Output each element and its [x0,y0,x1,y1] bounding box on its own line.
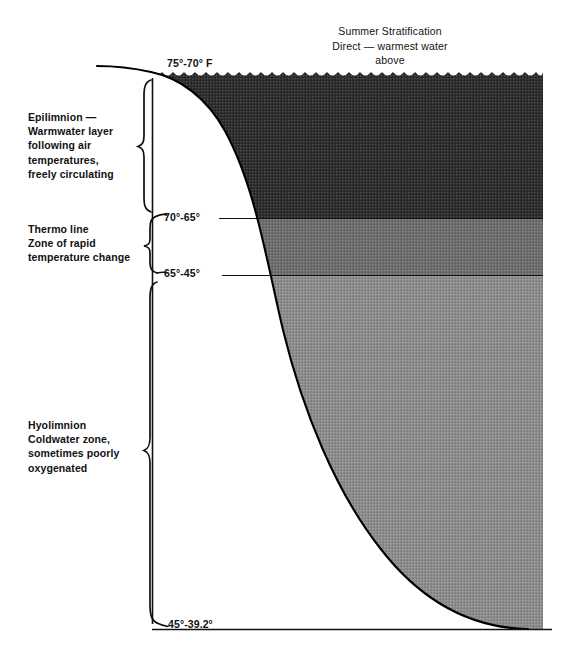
hook-bottom [157,623,168,627]
brace-thermocline [144,216,157,273]
temperature-label-thermocline-top: 70°-65° [164,211,200,223]
title-line-3: above [375,54,404,66]
diagram-title: Summer StratificationDirect — warmest wa… [262,24,518,68]
stratification-diagram [0,0,569,667]
temperature-label-thermocline-bottom: 65°-45° [164,267,200,279]
water-body [140,68,550,633]
zone-label-epilimnion: Epilimnion — Warmwater layer following a… [28,110,114,181]
surface-tail-line [97,66,151,72]
zone-label-hypolimnion: Hyolimnion Coldwater zone, sometimes poo… [28,418,119,475]
brace-epilimnion [138,80,151,212]
brace-hypolimnion [144,282,157,623]
title-line-1: Summer Stratification [338,25,442,37]
zone-label-thermocline: Thermo line Zone of rapid temperature ch… [28,222,130,265]
temperature-label-bottom: 45°-39.2° [168,618,213,630]
temperature-label-surface: 75°-70° F [167,57,212,69]
title-line-2: Direct — warmest water [332,40,447,52]
